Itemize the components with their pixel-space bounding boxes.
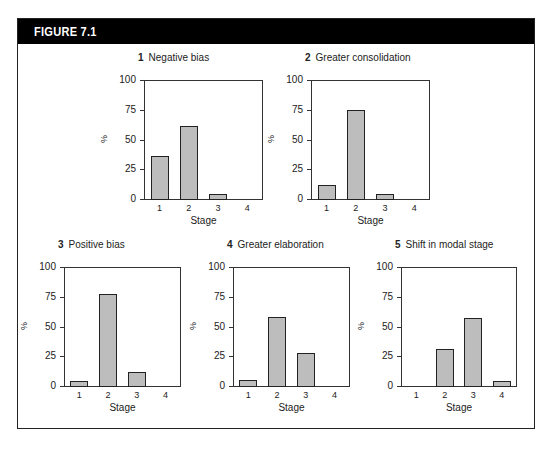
y-tick-label: 75 <box>32 291 56 302</box>
bar-stage-3 <box>209 194 227 200</box>
bar-stage-4 <box>493 381 511 387</box>
x-tick-label: 1 <box>319 203 335 213</box>
y-tick-label: 100 <box>369 261 393 272</box>
x-tick-label: 1 <box>408 390 424 400</box>
y-tick <box>140 140 144 141</box>
bar-stage-2 <box>436 349 454 387</box>
y-tick <box>397 327 401 328</box>
y-axis-label: % <box>188 322 198 330</box>
y-tick <box>60 386 64 387</box>
y-tick-label: 50 <box>369 321 393 332</box>
bar-stage-3 <box>297 353 315 388</box>
y-tick-label: 100 <box>201 261 225 272</box>
y-axis-label: % <box>99 135 109 143</box>
y-tick-label: 100 <box>279 74 303 85</box>
y-tick <box>307 80 311 81</box>
x-tick-label: 4 <box>494 390 510 400</box>
y-tick-label: 75 <box>201 291 225 302</box>
plot-area <box>64 267 181 387</box>
y-tick <box>397 386 401 387</box>
bar-stage-1 <box>318 185 336 200</box>
panel-title-text: Negative bias <box>149 52 210 63</box>
panel-title: 5Shift in modal stage <box>395 239 493 250</box>
y-tick <box>307 110 311 111</box>
y-tick <box>140 169 144 170</box>
y-tick-label: 25 <box>369 350 393 361</box>
y-tick-label: 75 <box>279 104 303 115</box>
x-tick-label: 2 <box>269 390 285 400</box>
panel-number: 5 <box>395 239 401 250</box>
x-tick-label: 1 <box>71 390 87 400</box>
bar-stage-1 <box>70 381 88 387</box>
panel-title: 4Greater elaboration <box>227 239 324 250</box>
y-tick <box>229 267 233 268</box>
panel-number: 2 <box>305 52 311 63</box>
bar-stage-3 <box>464 318 482 387</box>
panel-number: 3 <box>58 239 64 250</box>
panel-title-text: Greater elaboration <box>238 239 324 250</box>
panel-number: 1 <box>138 52 144 63</box>
y-tick <box>229 297 233 298</box>
y-tick <box>229 356 233 357</box>
y-axis-label: % <box>266 135 276 143</box>
y-tick-label: 0 <box>201 380 225 391</box>
y-tick-label: 0 <box>32 380 56 391</box>
y-tick <box>307 140 311 141</box>
y-tick-label: 25 <box>279 163 303 174</box>
x-tick-label: 4 <box>327 390 343 400</box>
panel-title: 3Positive bias <box>58 239 125 250</box>
x-tick-label: 4 <box>406 203 422 213</box>
plot-area <box>233 267 350 387</box>
x-tick-label: 3 <box>298 390 314 400</box>
x-tick-label: 1 <box>152 203 168 213</box>
y-tick-label: 100 <box>112 74 136 85</box>
y-tick-label: 25 <box>32 350 56 361</box>
bar-stage-2 <box>347 110 365 200</box>
y-tick-label: 25 <box>112 163 136 174</box>
bar-stage-2 <box>268 317 286 387</box>
x-tick-label: 2 <box>100 390 116 400</box>
y-tick <box>60 267 64 268</box>
y-tick <box>229 386 233 387</box>
x-axis-label: Stage <box>64 402 181 413</box>
y-tick <box>397 267 401 268</box>
y-tick-label: 50 <box>112 134 136 145</box>
y-tick <box>140 80 144 81</box>
bar-stage-1 <box>151 156 169 200</box>
panel-number: 4 <box>227 239 233 250</box>
x-tick-label: 4 <box>158 390 174 400</box>
y-tick-label: 50 <box>279 134 303 145</box>
y-tick-label: 75 <box>369 291 393 302</box>
x-axis-label: Stage <box>311 215 430 226</box>
y-tick <box>60 356 64 357</box>
y-tick <box>60 327 64 328</box>
x-tick-label: 2 <box>348 203 364 213</box>
y-tick-label: 75 <box>112 104 136 115</box>
y-tick <box>140 199 144 200</box>
panel-title-text: Greater consolidation <box>316 52 411 63</box>
x-tick-label: 2 <box>437 390 453 400</box>
panel-title: 1Negative bias <box>138 52 209 63</box>
plot-area <box>311 80 430 200</box>
x-axis-label: Stage <box>144 215 263 226</box>
y-tick-label: 0 <box>112 193 136 204</box>
figure-header: FIGURE 7.1 <box>18 19 534 44</box>
y-tick-label: 0 <box>369 380 393 391</box>
y-tick <box>307 199 311 200</box>
panel-title: 2Greater consolidation <box>305 52 411 63</box>
plot-area <box>144 80 263 200</box>
x-tick-label: 4 <box>239 203 255 213</box>
x-tick-label: 3 <box>377 203 393 213</box>
x-tick-label: 2 <box>181 203 197 213</box>
bar-stage-1 <box>239 380 257 387</box>
y-axis-label: % <box>19 322 29 330</box>
y-tick-label: 0 <box>279 193 303 204</box>
y-tick <box>229 327 233 328</box>
y-tick <box>397 356 401 357</box>
x-tick-label: 1 <box>240 390 256 400</box>
bar-stage-3 <box>376 194 394 200</box>
figure-title: FIGURE 7.1 <box>34 24 97 39</box>
y-tick-label: 50 <box>32 321 56 332</box>
x-tick-label: 3 <box>129 390 145 400</box>
bar-stage-3 <box>128 372 146 387</box>
